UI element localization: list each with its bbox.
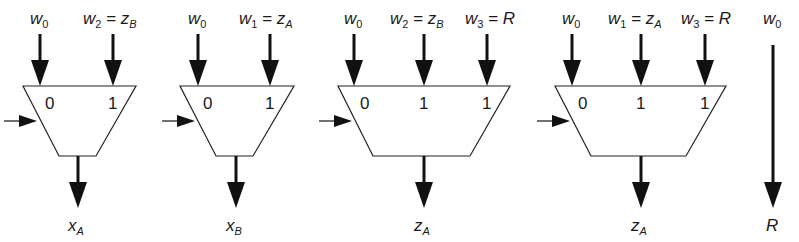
select-value-label: 0 bbox=[578, 94, 587, 113]
input-label: w0 bbox=[30, 9, 48, 30]
passthrough-wire: w0 R bbox=[763, 9, 782, 235]
mux-body bbox=[23, 86, 136, 156]
input-arrow bbox=[563, 34, 581, 86]
input-label: w0 bbox=[763, 9, 781, 30]
select-value-label: 0 bbox=[45, 94, 54, 113]
output-label: R bbox=[766, 216, 778, 235]
select-value-label: 0 bbox=[360, 94, 369, 113]
output-label: xA bbox=[67, 216, 84, 237]
diagram-canvas: w0 w2 = zB 0 1 xA w0 w1 = zA bbox=[0, 0, 799, 242]
select-arrow bbox=[319, 115, 352, 127]
select-value-label: 1 bbox=[419, 94, 428, 113]
input-arrow bbox=[189, 34, 207, 86]
input-arrow bbox=[261, 34, 279, 86]
mux-1: w0 w2 = zB 0 1 xA bbox=[4, 9, 137, 237]
input-label: w2 = zB bbox=[390, 9, 444, 30]
input-arrow bbox=[478, 34, 496, 86]
select-value-label: 1 bbox=[482, 94, 491, 113]
input-label: w3 = R bbox=[465, 9, 515, 30]
output-label: xB bbox=[225, 216, 242, 237]
output-label: zA bbox=[413, 216, 430, 237]
input-label: w0 bbox=[188, 9, 206, 30]
input-label: w1 = zA bbox=[239, 9, 293, 30]
output-arrow bbox=[69, 156, 87, 208]
input-arrow bbox=[104, 34, 122, 86]
mux-2: w0 w1 = zA 0 1 xB bbox=[162, 9, 294, 237]
input-label: w1 = zA bbox=[608, 9, 662, 30]
input-arrow bbox=[345, 34, 363, 86]
select-value-label: 1 bbox=[636, 94, 645, 113]
mux-body bbox=[180, 86, 294, 156]
arrowhead-icon bbox=[764, 182, 782, 208]
select-arrow bbox=[162, 115, 195, 127]
select-value-label: 0 bbox=[203, 94, 212, 113]
output-arrow bbox=[632, 156, 650, 208]
mux-3: w0 w2 = zB w3 = R 0 1 1 zA bbox=[319, 9, 515, 237]
select-value-label: 1 bbox=[265, 94, 274, 113]
input-label: w0 bbox=[344, 9, 362, 30]
input-arrow bbox=[415, 34, 433, 86]
input-arrow bbox=[632, 34, 650, 86]
input-label: w3 = R bbox=[681, 9, 731, 30]
input-arrow bbox=[696, 34, 714, 86]
output-arrow bbox=[227, 156, 245, 208]
output-arrow bbox=[415, 156, 433, 208]
input-arrow bbox=[31, 34, 49, 86]
select-value-label: 1 bbox=[108, 94, 117, 113]
select-arrow bbox=[4, 115, 37, 127]
output-label: zA bbox=[630, 216, 647, 237]
input-label: w0 bbox=[562, 9, 580, 30]
select-arrow bbox=[537, 115, 570, 127]
select-value-label: 1 bbox=[700, 94, 709, 113]
mux-4: w0 w1 = zA w3 = R 0 1 1 zA bbox=[537, 9, 731, 237]
input-label: w2 = zB bbox=[83, 9, 137, 30]
